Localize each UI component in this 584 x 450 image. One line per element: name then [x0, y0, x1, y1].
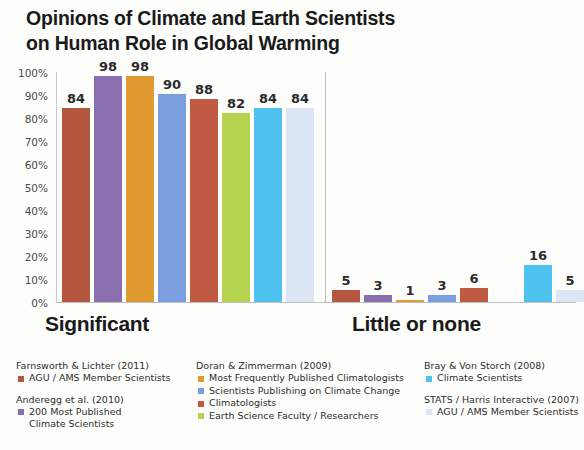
- legend-item-label: Most Frequently Published Climatologists: [209, 372, 424, 385]
- legend-study: Farnsworth & Lichter (2011)AGU / AMS Mem…: [16, 360, 196, 385]
- bar-value-label: 88: [195, 82, 213, 97]
- y-axis-tick: 30%: [0, 229, 48, 239]
- bar-value-label: 1: [405, 283, 414, 298]
- legend-study-title: STATS / Harris Interactive (2007): [424, 394, 583, 406]
- category-group-divider: [325, 72, 326, 303]
- y-axis-tick: 100%: [0, 68, 48, 78]
- y-axis-tick: 0%: [0, 298, 48, 308]
- bar-group-little-or-none: 53136165: [332, 68, 576, 303]
- bar-value-label: 84: [67, 91, 85, 106]
- category-label-little-or-none: Little or none: [352, 312, 481, 336]
- legend-study-title: Anderegg et al. (2010): [16, 394, 196, 406]
- page-title: Opinions of Climate and Earth Scientists…: [26, 6, 566, 56]
- bar-rect: [524, 265, 552, 302]
- bar-rect: [460, 288, 488, 302]
- legend-swatch-icon: [18, 376, 24, 382]
- legend-item-label: AGU / AMS Member Scientists: [29, 372, 196, 385]
- legend-item[interactable]: Climate Scientists: [424, 372, 583, 385]
- legend-item[interactable]: Scientists Publishing on Climate Change: [196, 385, 424, 398]
- legend-swatch-icon: [18, 409, 24, 415]
- legend-study: STATS / Harris Interactive (2007)AGU / A…: [424, 394, 583, 419]
- bar-value-label: 6: [469, 271, 478, 286]
- legend-item-label: Scientists Publishing on Climate Change: [209, 385, 424, 398]
- y-axis-tick: 40%: [0, 206, 48, 216]
- y-axis-tick: 80%: [0, 114, 48, 124]
- y-axis-tick: 60%: [0, 160, 48, 170]
- bar-rect: [286, 108, 314, 302]
- legend-item-label: AGU / AMS Member Scientists: [437, 406, 583, 419]
- category-labels: Significant Little or none: [0, 312, 583, 346]
- bar-value-label: 84: [291, 91, 309, 106]
- legend-study-title: Doran & Zimmerman (2009): [196, 360, 424, 372]
- legend-item-label-line2: Climate Scientists: [29, 418, 196, 431]
- bar-rect: [190, 99, 218, 302]
- bar-rect: [364, 295, 392, 302]
- legend-swatch-icon: [198, 401, 204, 407]
- legend-item-label: Climatologists: [209, 397, 424, 410]
- legend-study-title: Farnsworth & Lichter (2011): [16, 360, 196, 372]
- y-axis-tick: 50%: [0, 183, 48, 193]
- bar-value-label: 3: [437, 278, 446, 293]
- bar-rect: [332, 290, 360, 302]
- bar-group-significant: 8498989088828484: [62, 68, 320, 303]
- legend-column-3: Bray & Von Storch (2008)Climate Scientis…: [424, 360, 583, 419]
- bar-rect: [428, 295, 456, 302]
- title-line-1: Opinions of Climate and Earth Scientists: [26, 6, 566, 31]
- legend-study: Bray & Von Storch (2008)Climate Scientis…: [424, 360, 583, 385]
- legend-item[interactable]: AGU / AMS Member Scientists: [424, 406, 583, 419]
- legend-swatch-icon: [426, 409, 432, 415]
- y-axis-tick: 90%: [0, 91, 48, 101]
- legend-study: Doran & Zimmerman (2009)Most Frequently …: [196, 360, 424, 422]
- bar-value-label: 5: [341, 273, 350, 288]
- bar-rect: [396, 300, 424, 302]
- y-axis-tick: 10%: [0, 275, 48, 285]
- category-label-significant: Significant: [45, 312, 149, 336]
- legend-swatch-icon: [198, 376, 204, 382]
- bar-value-label: 3: [373, 278, 382, 293]
- legend-swatch-icon: [426, 376, 432, 382]
- bar-rect: [62, 108, 90, 302]
- bar-rect: [158, 94, 186, 302]
- legend-item-label: 200 Most Published: [29, 406, 196, 419]
- y-axis-tick: 20%: [0, 252, 48, 262]
- y-axis-line: [56, 72, 57, 303]
- bar-value-label: 82: [227, 96, 245, 111]
- bar-rect: [126, 76, 154, 302]
- bar-value-label: 90: [163, 77, 181, 92]
- bar-value-label: 5: [565, 273, 574, 288]
- legend-item[interactable]: Earth Science Faculty / Researchers: [196, 410, 424, 423]
- legend-study-title: Bray & Von Storch (2008): [424, 360, 583, 372]
- y-axis: 100%90%80%70%60%50%40%30%20%10%0%: [0, 68, 52, 308]
- legend-item-label: Earth Science Faculty / Researchers: [209, 410, 424, 423]
- legend-item[interactable]: Climatologists: [196, 397, 424, 410]
- bar-value-label: 84: [259, 91, 277, 106]
- legend-item[interactable]: AGU / AMS Member Scientists: [16, 372, 196, 385]
- legend-study: Anderegg et al. (2010)200 Most Published…: [16, 394, 196, 431]
- legend-item[interactable]: Most Frequently Published Climatologists: [196, 372, 424, 385]
- legend-swatch-icon: [198, 388, 204, 394]
- y-axis-tick: 70%: [0, 137, 48, 147]
- bar-value-label: 98: [131, 59, 149, 74]
- bar-rect: [556, 290, 584, 302]
- bar-rect: [254, 108, 282, 302]
- plot-area: 100%90%80%70%60%50%40%30%20%10%0% 849898…: [0, 68, 583, 318]
- legend-item-label: Climate Scientists: [437, 372, 583, 385]
- legend: Farnsworth & Lichter (2011)AGU / AMS Mem…: [0, 360, 583, 450]
- bar-rect: [222, 113, 250, 302]
- legend-swatch-icon: [198, 413, 204, 419]
- bar-value-label: 98: [99, 59, 117, 74]
- legend-column-1: Farnsworth & Lichter (2011)AGU / AMS Mem…: [16, 360, 196, 432]
- bar-rect: [94, 76, 122, 302]
- legend-item[interactable]: 200 Most PublishedClimate Scientists: [16, 406, 196, 431]
- title-line-2: on Human Role in Global Warming: [26, 31, 566, 56]
- bar-value-label: 16: [529, 248, 547, 263]
- legend-column-2: Doran & Zimmerman (2009)Most Frequently …: [196, 360, 424, 423]
